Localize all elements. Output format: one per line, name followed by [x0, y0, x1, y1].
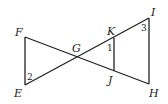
segment-fh: [25, 37, 149, 84]
label-f: F: [14, 26, 23, 39]
label-e: E: [13, 87, 22, 100]
label-h: H: [148, 87, 159, 100]
label-k: K: [106, 25, 116, 38]
angle-1-label: 1: [107, 43, 113, 53]
segment-ei: [25, 18, 149, 85]
label-j: J: [106, 74, 113, 87]
label-i: I: [150, 6, 156, 19]
geometry-figure: F E G K J I H 1 2 3: [0, 0, 168, 104]
label-g: G: [72, 42, 81, 55]
angle-3-label: 3: [141, 23, 147, 33]
angle-2-label: 2: [27, 72, 33, 82]
